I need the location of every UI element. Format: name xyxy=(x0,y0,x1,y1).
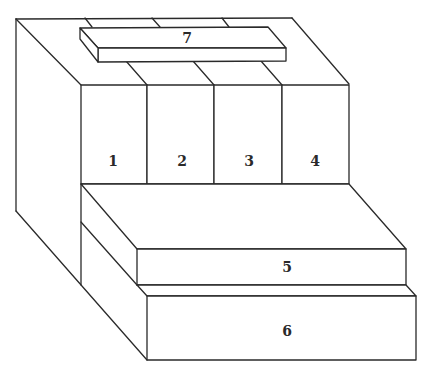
label-2: 2 xyxy=(177,153,187,169)
upper-boxes: 1 2 3 4 xyxy=(81,85,349,184)
label-1: 1 xyxy=(108,153,118,169)
bar-7-front-face xyxy=(98,48,286,62)
box-1 xyxy=(81,85,147,184)
step-6-top-face xyxy=(137,285,416,296)
label-5: 5 xyxy=(282,259,292,275)
label-3: 3 xyxy=(244,153,254,169)
label-4: 4 xyxy=(310,153,320,169)
label-6: 6 xyxy=(282,323,292,339)
box-2 xyxy=(147,85,214,184)
box-4 xyxy=(282,85,349,184)
step-5-front-face xyxy=(137,249,406,285)
bar-7: 7 xyxy=(80,27,286,62)
step-5: 5 xyxy=(81,184,406,285)
box-3 xyxy=(214,85,282,184)
step-5-top-face xyxy=(81,184,406,249)
step-6: 6 xyxy=(137,285,416,360)
label-7: 7 xyxy=(182,30,192,46)
diagram-canvas: 7 1 2 3 4 5 6 xyxy=(0,0,431,376)
block-assembly-drawing: 7 1 2 3 4 5 6 xyxy=(0,0,431,376)
